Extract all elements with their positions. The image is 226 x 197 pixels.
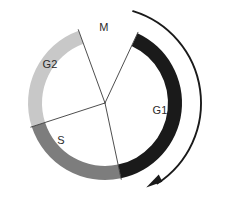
cell-cycle-diagram: G1 S G2 M: [0, 0, 226, 197]
divider-line-m-g1: [105, 32, 138, 103]
divider-lines-group: [31, 30, 138, 180]
cycle-direction-arrow-head: [146, 174, 162, 187]
phase-label-m: M: [99, 21, 108, 33]
phase-label-g1: G1: [152, 104, 167, 116]
phase-label-g2: G2: [42, 58, 57, 70]
cell-cycle-figure: G1 S G2 M: [0, 0, 226, 197]
phase-label-s: S: [57, 134, 65, 146]
ring-segment-s: [32, 122, 121, 180]
